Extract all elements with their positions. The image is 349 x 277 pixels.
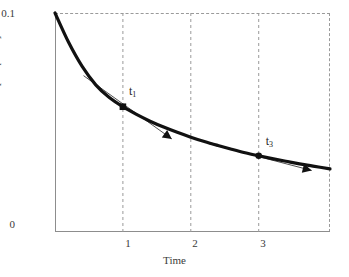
x-axis-title: Time xyxy=(0,254,349,266)
y-axis-tick-top: 0.1 xyxy=(1,8,15,19)
chart-figure: 0.1 0 [compound] 1 2 3 Time t1 t3 xyxy=(0,0,349,277)
y-axis-tick-bottom: 0 xyxy=(10,219,16,230)
chart-canvas xyxy=(55,13,330,232)
x-axis-tick-3: 3 xyxy=(260,238,266,249)
point-label-t1: t1 xyxy=(129,85,136,97)
decay-curve xyxy=(55,13,330,169)
marker-t1 xyxy=(120,103,127,110)
plot-area: t1 t3 xyxy=(55,13,330,232)
point-label-t3: t3 xyxy=(266,135,273,147)
concentration-curve-path xyxy=(55,13,330,169)
x-axis-tick-1: 1 xyxy=(125,238,131,249)
y-axis-title: [compound] xyxy=(0,35,1,86)
marker-t3 xyxy=(255,152,262,159)
gridlines xyxy=(123,13,259,232)
x-axis-tick-2: 2 xyxy=(192,238,198,249)
